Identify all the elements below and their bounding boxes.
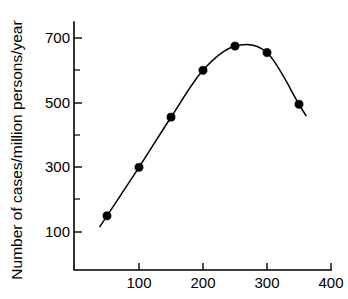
axis-spines	[74, 22, 331, 270]
y-axis-ticks	[74, 38, 82, 232]
y-tick-label-300: 300	[45, 158, 70, 175]
x-tick-label-400: 400	[318, 274, 343, 291]
data-point-300	[263, 48, 271, 56]
data-point-50	[103, 212, 111, 220]
y-tick-label-500: 500	[45, 94, 70, 111]
y-tick-label-100: 100	[45, 223, 70, 240]
data-markers	[103, 42, 303, 220]
y-axis-title: Number of cases/million persons/year	[8, 20, 25, 279]
x-tick-label-200: 200	[190, 274, 215, 291]
line-chart: Number of cases/million persons/year 700…	[0, 0, 348, 299]
y-axis-tick-labels: 700 500 300 100	[45, 29, 70, 240]
data-point-150	[167, 113, 175, 121]
x-tick-label-300: 300	[254, 274, 279, 291]
y-tick-label-700: 700	[45, 29, 70, 46]
data-point-350	[295, 100, 303, 108]
x-axis-tick-labels: 100 200 300 400	[126, 274, 343, 291]
data-point-250	[231, 42, 239, 50]
x-axis-ticks	[139, 263, 331, 270]
data-point-200	[199, 66, 207, 74]
x-tick-label-100: 100	[126, 274, 151, 291]
data-point-100	[135, 163, 143, 171]
chart-figure: Number of cases/million persons/year 700…	[0, 0, 348, 299]
